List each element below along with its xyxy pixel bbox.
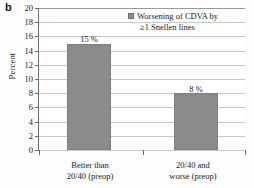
panel-letter: b xyxy=(5,2,12,13)
x-category-label-line1: Better than xyxy=(38,160,142,171)
x-category-label-better-than-2040: Better than 20/40 (preop) xyxy=(38,160,142,182)
bar-value-label: 15 % xyxy=(80,35,98,44)
y-tick-mark-16 xyxy=(35,36,39,37)
y-tick-mark-12 xyxy=(35,65,39,66)
y-tick-mark-20 xyxy=(35,8,39,9)
y-tick-label-8: 8 xyxy=(29,89,33,98)
y-tick-mark-18 xyxy=(35,22,39,23)
y-tick-label-14: 14 xyxy=(25,46,34,55)
y-tick-label-20: 20 xyxy=(25,4,34,13)
y-tick-mark-6 xyxy=(35,107,39,108)
bar-better-than-2040[interactable]: 15 % xyxy=(67,44,111,151)
x-category-label-line2: 20/40 (preop) xyxy=(38,171,142,182)
y-tick-label-2: 2 xyxy=(29,132,33,141)
x-category-label-line1: 20/40 and xyxy=(141,160,245,171)
y-axis-title: Percent xyxy=(7,31,17,101)
y-tick-label-10: 10 xyxy=(25,75,34,84)
bar-value-label: 8 % xyxy=(189,85,202,94)
legend-label-line2: ≥1 Snellen lines xyxy=(128,22,244,33)
legend-entry: Worsening of CDVA by xyxy=(128,11,244,22)
y-tick-mark-10 xyxy=(35,79,39,80)
y-tick-mark-14 xyxy=(35,51,39,52)
gridline-16 xyxy=(39,36,245,37)
chart-legend: Worsening of CDVA by ≥1 Snellen lines xyxy=(128,11,244,33)
x-category-label-2040-and-worse: 20/40 and worse (preop) xyxy=(141,160,245,182)
y-tick-label-0: 0 xyxy=(29,146,33,155)
legend-swatch-icon xyxy=(128,13,134,19)
y-tick-label-16: 16 xyxy=(25,32,34,41)
y-tick-label-12: 12 xyxy=(25,61,34,70)
bar-chart-figure: b Percent 0 2 4 6 8 xyxy=(0,0,254,188)
y-tick-mark-4 xyxy=(35,122,39,123)
x-tick-mark-right xyxy=(245,150,246,155)
x-tick-mark-middle xyxy=(143,150,144,155)
gridline-20 xyxy=(39,8,245,9)
x-category-label-line2: worse (preop) xyxy=(141,171,245,182)
y-tick-label-18: 18 xyxy=(25,18,34,27)
y-tick-label-6: 6 xyxy=(29,103,33,112)
bar-2040-and-worse[interactable]: 8 % xyxy=(174,93,218,150)
legend-label-line1: Worsening of CDVA by xyxy=(137,11,218,22)
y-tick-label-4: 4 xyxy=(29,117,33,126)
y-tick-mark-8 xyxy=(35,93,39,94)
y-tick-mark-2 xyxy=(35,136,39,137)
x-tick-mark-left xyxy=(39,150,40,155)
